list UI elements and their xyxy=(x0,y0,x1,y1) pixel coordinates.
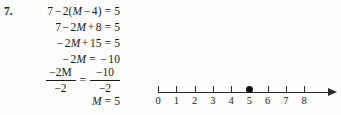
equation-step-4: −2M = −10 xyxy=(61,54,120,66)
final-answer-text: M = 5 xyxy=(92,95,120,107)
fraction-left-numerator: −2M xyxy=(46,67,74,80)
equation-step-5-fraction: −2M −2 = −10 −2 xyxy=(46,67,121,94)
tick-mark-3 xyxy=(213,86,214,92)
equation-step-2: 7−2M+8 = 5 xyxy=(55,22,120,34)
step-1-text: 7−2(M−4) = 5 xyxy=(47,5,120,17)
step-4-text: −2M = −10 xyxy=(61,53,120,65)
fraction-right: −10 −2 xyxy=(90,67,120,94)
tick-label-1: 1 xyxy=(168,96,184,107)
tick-label-0: 0 xyxy=(150,96,166,107)
fraction-left-denominator: −2 xyxy=(51,81,69,95)
marked-point-dot xyxy=(246,86,253,93)
fraction-right-numerator: −10 xyxy=(93,67,117,80)
fraction-equals-sign: = xyxy=(76,75,91,87)
equation-step-1: 7−2(M−4) = 5 xyxy=(47,6,120,18)
tick-label-3: 3 xyxy=(205,96,221,107)
step-2-text: 7−2M+8 = 5 xyxy=(55,21,120,33)
tick-label-4: 4 xyxy=(223,96,239,107)
tick-mark-6 xyxy=(268,86,269,92)
arrow-right-icon xyxy=(328,88,337,96)
problem-number-label: 7. xyxy=(4,6,13,18)
tick-label-6: 6 xyxy=(260,96,276,107)
tick-label-5: 5 xyxy=(241,96,257,107)
tick-mark-8 xyxy=(304,86,305,92)
tick-mark-0 xyxy=(158,86,159,92)
equation-step-3: −2M+15 = 5 xyxy=(55,38,120,50)
tick-mark-4 xyxy=(231,86,232,92)
fraction-left: −2M −2 xyxy=(46,67,76,94)
number-line: 012345678 xyxy=(150,60,341,115)
tick-mark-7 xyxy=(286,86,287,92)
tick-mark-2 xyxy=(195,86,196,92)
worksheet-page: 7. 7−2(M−4) = 5 7−2M+8 = 5 −2M+15 = 5 −2… xyxy=(0,0,341,115)
step-3-text: −2M+15 = 5 xyxy=(55,37,120,49)
tick-label-2: 2 xyxy=(187,96,203,107)
equation-step-final-answer: M = 5 xyxy=(92,96,120,108)
fraction-right-denominator: −2 xyxy=(96,81,114,95)
tick-label-7: 7 xyxy=(278,96,294,107)
tick-label-8: 8 xyxy=(296,96,312,107)
solution-steps-block: 7. 7−2(M−4) = 5 7−2M+8 = 5 −2M+15 = 5 −2… xyxy=(0,0,132,115)
tick-mark-1 xyxy=(176,86,177,92)
number-line-axis xyxy=(158,92,330,93)
